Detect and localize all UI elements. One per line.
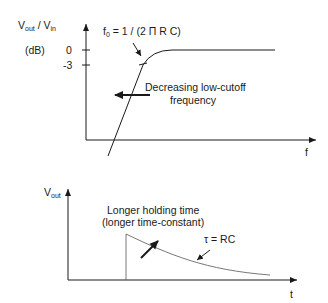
f0-formula: f0 = 1 / (2 Π R C) bbox=[103, 25, 181, 41]
longer-holding-arrow bbox=[141, 241, 158, 258]
y-label-v: V bbox=[18, 19, 25, 31]
decay-curve bbox=[126, 234, 270, 275]
tick-neg3-label: -3 bbox=[63, 59, 72, 71]
bottom-y-axis-label: Vout bbox=[44, 186, 61, 202]
y-label-sub-in: in bbox=[51, 25, 56, 32]
tau-pointer-arrow bbox=[197, 250, 210, 260]
y-label-sep: / V bbox=[35, 19, 51, 31]
top-x-axis-label: f bbox=[305, 146, 308, 158]
f0-rest: = 1 / (2 Π R C) bbox=[110, 25, 181, 37]
bottom-plot bbox=[68, 189, 297, 280]
decreasing-annotation-line2: frequency bbox=[170, 94, 216, 106]
f0-pointer-arrow bbox=[133, 43, 141, 56]
top-y-axis-label: Vout / Vin bbox=[18, 19, 56, 35]
vout-sub: out bbox=[51, 192, 61, 199]
diagram-canvas bbox=[0, 0, 328, 303]
decreasing-annotation-line1: Decreasing low-cutoff bbox=[145, 81, 246, 93]
tick-0-label: 0 bbox=[66, 44, 72, 56]
holding-annotation-line2: (longer time-constant) bbox=[102, 216, 204, 228]
vout-main: V bbox=[44, 186, 51, 198]
y-label-sub-out: out bbox=[25, 25, 35, 32]
bottom-x-axis-label: t bbox=[290, 288, 293, 300]
top-y-unit: (dB) bbox=[25, 44, 45, 56]
tau-label: τ = RC bbox=[204, 233, 235, 245]
holding-annotation-line1: Longer holding time bbox=[107, 204, 199, 216]
